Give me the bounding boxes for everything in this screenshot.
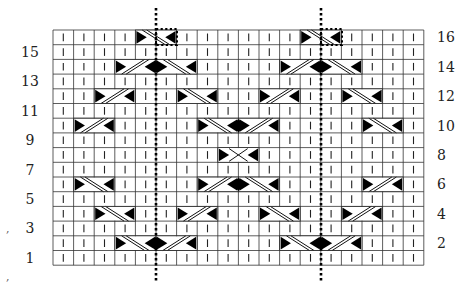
cable-fwd-symbol	[177, 206, 218, 221]
row-label: 1	[15, 251, 45, 265]
knitting-chart	[0, 0, 474, 297]
row-label: 3	[15, 221, 45, 235]
row-label: 4	[437, 207, 467, 221]
row-label: 12	[437, 89, 467, 103]
cable-back-symbol	[94, 206, 135, 221]
row-label: 5	[15, 192, 45, 206]
cable-back-symbol	[177, 89, 218, 104]
row-label: 14	[437, 60, 467, 74]
cable-back-symbol	[362, 118, 403, 133]
cable-fwd-symbol	[341, 206, 382, 221]
row-label: 8	[437, 148, 467, 162]
stray-mark: ,	[6, 270, 10, 283]
cable-back-symbol	[74, 177, 115, 192]
row-label: 7	[15, 163, 45, 177]
row-label: 16	[437, 30, 467, 44]
cable-cross-symbol	[218, 148, 259, 163]
cable-fwd-symbol	[259, 89, 300, 104]
cable-fwd-symbol	[94, 89, 135, 104]
cable-fwd-symbol	[362, 177, 403, 192]
row-label: 10	[437, 119, 467, 133]
row-label: 15	[15, 45, 45, 59]
row-label: 2	[437, 236, 467, 250]
row-label: 13	[15, 74, 45, 88]
stray-mark: ,	[6, 222, 10, 235]
cable-back-symbol	[259, 206, 300, 221]
row-label: 11	[15, 104, 45, 118]
cable-back-symbol	[341, 89, 382, 104]
row-label: 9	[15, 133, 45, 147]
cable-fwd-symbol	[74, 118, 115, 133]
row-label: 6	[437, 177, 467, 191]
